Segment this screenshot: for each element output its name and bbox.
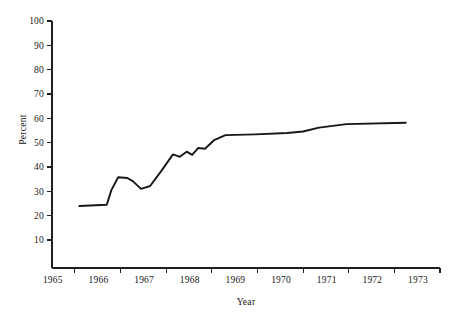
x-tick-label: 1971 [317,275,337,285]
x-tick-label: 1967 [134,275,154,285]
x-tick-label: 1968 [180,275,200,285]
y-axis-title: Percent [18,114,28,145]
chart-background [0,0,458,321]
x-tick-label: 1973 [408,275,428,285]
y-tick-label: 80 [34,65,44,75]
y-tick-label: 20 [34,211,44,221]
x-axis-title: Year [237,297,256,307]
y-tick-label: 60 [34,114,44,124]
y-tick-label: 10 [34,235,44,245]
y-tick-label: 40 [34,162,44,172]
y-tick-label: 90 [34,41,44,51]
line-chart-svg: 100908070605040302010 196519661967196819… [0,0,458,321]
x-tick-label: 1972 [362,275,382,285]
x-tick-label: 1969 [226,275,246,285]
x-tick-label: 1965 [43,275,63,285]
x-tick-label: 1966 [89,275,109,285]
chart-figure: 100908070605040302010 196519661967196819… [0,0,458,321]
x-tick-label: 1970 [271,275,291,285]
y-tick-label: 50 [34,138,44,148]
y-tick-label: 100 [29,16,44,26]
y-tick-label: 70 [34,89,44,99]
y-tick-label: 30 [34,187,44,197]
